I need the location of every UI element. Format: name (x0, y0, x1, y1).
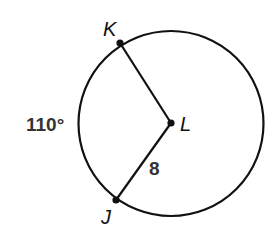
circle-diagram: K L J 110° 8 (0, 0, 278, 245)
label-j: J (100, 206, 112, 228)
label-l: L (180, 113, 191, 135)
radius-length-label: 8 (149, 158, 160, 179)
label-k: K (103, 18, 118, 40)
point-k (116, 39, 123, 46)
arc-measure-label: 110° (26, 114, 64, 135)
point-l-center (167, 119, 174, 126)
segment-lj (116, 123, 171, 200)
segment-kl (120, 43, 171, 123)
point-j (112, 196, 119, 203)
